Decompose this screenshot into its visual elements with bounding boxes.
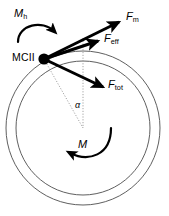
vector-f-eff bbox=[44, 41, 98, 59]
label-m-h: Mh bbox=[14, 8, 27, 19]
f-tot-subscript: tot bbox=[115, 83, 123, 92]
moment-arrow-m bbox=[70, 128, 111, 157]
mcii-text: MCII bbox=[12, 51, 35, 63]
mcii-point-marker bbox=[38, 53, 49, 64]
diagram-canvas bbox=[0, 0, 169, 216]
f-tot-base: F bbox=[108, 78, 115, 90]
label-f-tot: Ftot bbox=[108, 79, 123, 90]
f-eff-base: F bbox=[104, 32, 111, 44]
force-diagram-figure: MCII Fm Feff Ftot Mh M α bbox=[0, 0, 169, 216]
alpha-text: α bbox=[75, 100, 80, 110]
label-m: M bbox=[78, 139, 87, 150]
f-m-subscript: m bbox=[133, 15, 139, 24]
m-h-subscript: h bbox=[23, 12, 27, 21]
moment-arrow-mh bbox=[18, 25, 54, 42]
label-mcii: MCII bbox=[12, 52, 35, 63]
f-eff-subscript: eff bbox=[111, 37, 119, 46]
label-f-eff: Feff bbox=[104, 33, 119, 44]
f-m-base: F bbox=[126, 10, 133, 22]
vector-f-tot bbox=[44, 59, 103, 87]
label-f-m: Fm bbox=[126, 11, 139, 22]
label-alpha: α bbox=[75, 101, 80, 110]
m-h-base: M bbox=[14, 7, 23, 19]
m-base: M bbox=[78, 138, 87, 150]
